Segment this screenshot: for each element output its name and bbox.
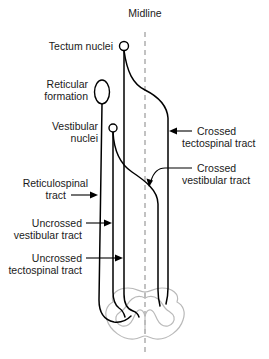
vestibular-nuclei-label: Vestibular nuclei	[52, 120, 99, 144]
uncrossed-vestibular-tract-label: Uncrossed vestibular tract	[14, 217, 112, 241]
crossed-tectospinal-arrowhead	[169, 128, 177, 135]
reticular-formation-marker	[95, 80, 110, 104]
uncrossed-tectospinal-arrowhead	[115, 255, 123, 262]
uncrossed-tectospinal-label-line1: Uncrossed	[32, 252, 82, 264]
reticular-formation-label: Reticular formation	[44, 78, 88, 102]
crossed-vestibular-label-line1: Crossed	[197, 162, 236, 174]
midline-group: Midline	[128, 7, 161, 352]
crossed-vestibular-tract-label: Crossed vestibular tract	[147, 162, 251, 187]
reticular-formation-label-line2: formation	[44, 90, 88, 102]
uncrossed-vestibular-arrowhead	[104, 220, 112, 227]
uncrossed-tectospinal-tract-label: Uncrossed tectospinal tract	[8, 252, 123, 276]
tectum-nuclei-label: Tectum nuclei	[49, 40, 113, 52]
reticulospinal-tract-label: Reticulospinal tract	[23, 177, 98, 201]
reticulospinal-tract-path	[99, 104, 131, 322]
neuroanatomy-schematic: Midline	[0, 0, 269, 359]
midline-label: Midline	[128, 7, 161, 19]
reticulospinal-tract-arrowhead	[90, 192, 98, 199]
vestibular-nuclei-label-line2: nuclei	[71, 132, 98, 144]
crossed-tectospinal-label-line2: tectospinal tract	[182, 137, 256, 149]
uncrossed-tectospinal-label-line2: tectospinal tract	[8, 264, 82, 276]
crossed-vestibular-tract	[113, 132, 160, 306]
vestibular-nuclei-marker	[109, 124, 117, 132]
uncrossed-tectospinal-tract	[124, 51, 139, 318]
uncrossed-vestibular-label-line1: Uncrossed	[32, 217, 82, 229]
crossed-vestibular-tract-path	[113, 132, 160, 306]
uncrossed-vestibular-label-line2: vestibular tract	[14, 229, 82, 241]
reticulospinal-tract	[99, 104, 131, 322]
tectum-nuclei-marker	[120, 42, 129, 51]
diagram-root: Midline	[0, 0, 269, 359]
crossed-tectospinal-tract-path	[124, 51, 168, 305]
crossed-vestibular-label-line2: vestibular tract	[182, 174, 250, 186]
reticulospinal-tract-label-line2: tract	[46, 189, 67, 201]
uncrossed-tectospinal-tract-path	[124, 51, 139, 318]
crossed-tectospinal-tract-label: Crossed tectospinal tract	[169, 125, 256, 149]
reticular-formation-label-line1: Reticular	[47, 78, 89, 90]
crossed-tectospinal-label-line1: Crossed	[197, 125, 236, 137]
reticulospinal-tract-label-line1: Reticulospinal	[23, 177, 88, 189]
crossed-tectospinal-tract	[124, 51, 168, 305]
vestibular-nuclei-label-line1: Vestibular	[52, 120, 99, 132]
